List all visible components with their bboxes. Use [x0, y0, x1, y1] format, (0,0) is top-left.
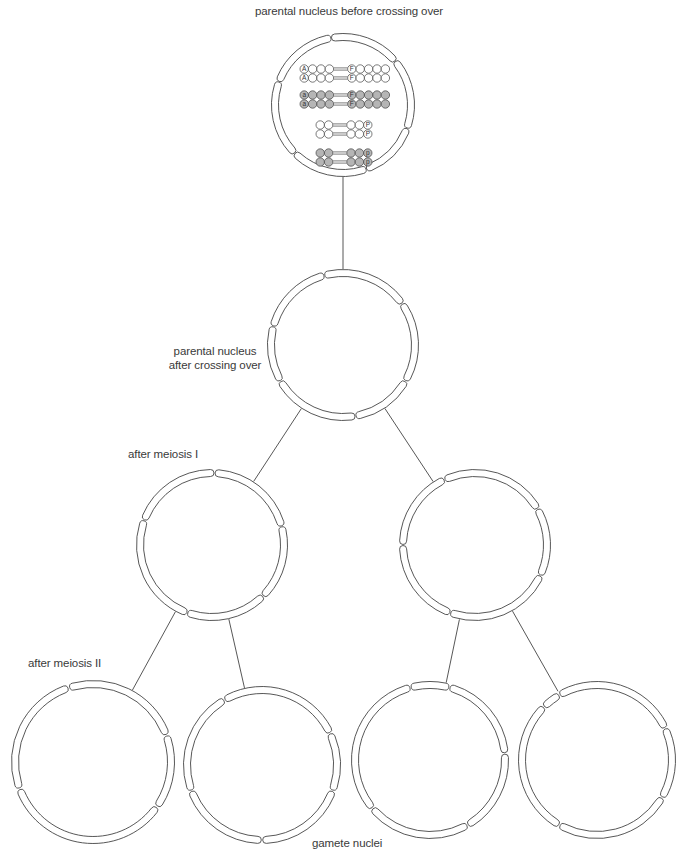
- envelope-segment: [451, 576, 542, 621]
- envelope-segment: [560, 682, 667, 729]
- connector-line: [254, 409, 302, 482]
- envelope-segment: [272, 82, 296, 154]
- chromosome: aF: [300, 100, 390, 108]
- chromosome: P: [316, 121, 372, 129]
- bead: [381, 100, 389, 108]
- envelope-segment: [372, 808, 467, 839]
- envelope-segment: [225, 687, 332, 734]
- envelope-segment: [445, 470, 539, 510]
- gene-label: P: [366, 121, 370, 128]
- envelope-segment: [271, 273, 324, 326]
- bead: [355, 121, 363, 129]
- bead: [324, 149, 332, 157]
- chromosome: p: [316, 149, 372, 158]
- envelope-segment: [544, 694, 560, 708]
- gene-label: A: [302, 74, 307, 81]
- gene-label: p: [366, 149, 370, 157]
- nucleus-gamete-1: [12, 681, 175, 844]
- bead: [373, 100, 381, 108]
- nucleus-gamete-4: [519, 682, 676, 839]
- envelope-segment: [536, 509, 551, 575]
- envelope-segment: [188, 595, 264, 620]
- chromosome: AF: [300, 65, 390, 73]
- connector-line: [446, 619, 459, 682]
- label-after-meiosis-2: after meiosis II: [28, 657, 101, 669]
- bead: [308, 100, 316, 108]
- envelope-segment: [215, 470, 284, 526]
- bead: [347, 130, 355, 138]
- bead: [316, 158, 324, 166]
- envelope-segment: [331, 34, 396, 62]
- envelope-segment: [519, 707, 560, 827]
- bead: [355, 158, 363, 166]
- bead: [317, 100, 325, 108]
- envelope-segment: [279, 381, 355, 421]
- connector-line: [229, 619, 245, 688]
- envelope-segment: [137, 521, 188, 615]
- gene-label: a: [302, 91, 306, 98]
- bead: [381, 74, 389, 82]
- bead: [324, 121, 332, 129]
- bead: [347, 121, 355, 129]
- chromosome: P: [316, 130, 372, 138]
- label-gamete-nuclei: gamete nuclei: [312, 837, 382, 849]
- bead: [356, 91, 364, 99]
- bead: [356, 74, 364, 82]
- connector-line: [513, 611, 559, 691]
- connector-line: [385, 408, 433, 481]
- envelope-segment: [183, 699, 224, 790]
- envelope-segment: [70, 681, 169, 735]
- label-parental-after-line2: after crossing over: [150, 359, 280, 371]
- envelope-segment: [142, 470, 214, 521]
- chromosomes-group: AFAFaFaFPPpp: [300, 65, 390, 167]
- bead: [316, 149, 324, 157]
- bead: [356, 65, 364, 73]
- envelope-segment: [450, 685, 508, 753]
- bead: [347, 158, 355, 166]
- nucleus-meiosis1-left: [137, 470, 288, 621]
- envelope-segment: [366, 128, 409, 171]
- bead: [364, 91, 372, 99]
- chromosome: AF: [300, 74, 390, 82]
- envelope-segment: [411, 682, 449, 691]
- nucleus-parent-after: [268, 270, 419, 421]
- bead: [347, 149, 355, 157]
- chromosome: p: [316, 158, 372, 167]
- bead: [355, 149, 363, 157]
- bead: [381, 65, 389, 73]
- envelope-segment: [12, 686, 69, 788]
- envelope-segment: [356, 381, 407, 419]
- bead: [324, 130, 332, 138]
- envelope-segment: [156, 736, 175, 807]
- envelope-segment: [328, 734, 340, 791]
- gene-label: F: [350, 100, 354, 107]
- meiosis-diagram: AFAFaFaFPPpp: [0, 0, 686, 861]
- envelope-segment: [18, 789, 158, 843]
- chromosome: aF: [300, 91, 390, 99]
- bead: [308, 91, 316, 99]
- bead: [316, 130, 324, 138]
- envelope-segment: [190, 791, 262, 843]
- bead: [355, 130, 363, 138]
- nucleus-gamete-2: [183, 687, 340, 844]
- bead: [317, 65, 325, 73]
- envelope-segment: [468, 754, 509, 826]
- gene-label: F: [350, 74, 354, 81]
- gene-label: F: [350, 91, 354, 98]
- envelope-segment: [400, 546, 451, 615]
- envelope-segment: [262, 527, 287, 597]
- envelope-segment: [394, 61, 415, 128]
- gene-label: p: [366, 158, 370, 166]
- nucleus-gamete-3: [351, 682, 508, 839]
- nucleus-meiosis1-right: [400, 470, 551, 621]
- envelope-segment: [325, 270, 403, 304]
- bead: [356, 100, 364, 108]
- label-parental-before: parental nucleus before crossing over: [255, 5, 435, 17]
- bead: [325, 91, 333, 99]
- envelope-segment: [263, 791, 335, 843]
- envelope-segment: [660, 729, 675, 798]
- envelope-segment: [400, 478, 445, 544]
- bead: [364, 74, 372, 82]
- bead: [373, 74, 381, 82]
- envelope-segment: [560, 798, 664, 839]
